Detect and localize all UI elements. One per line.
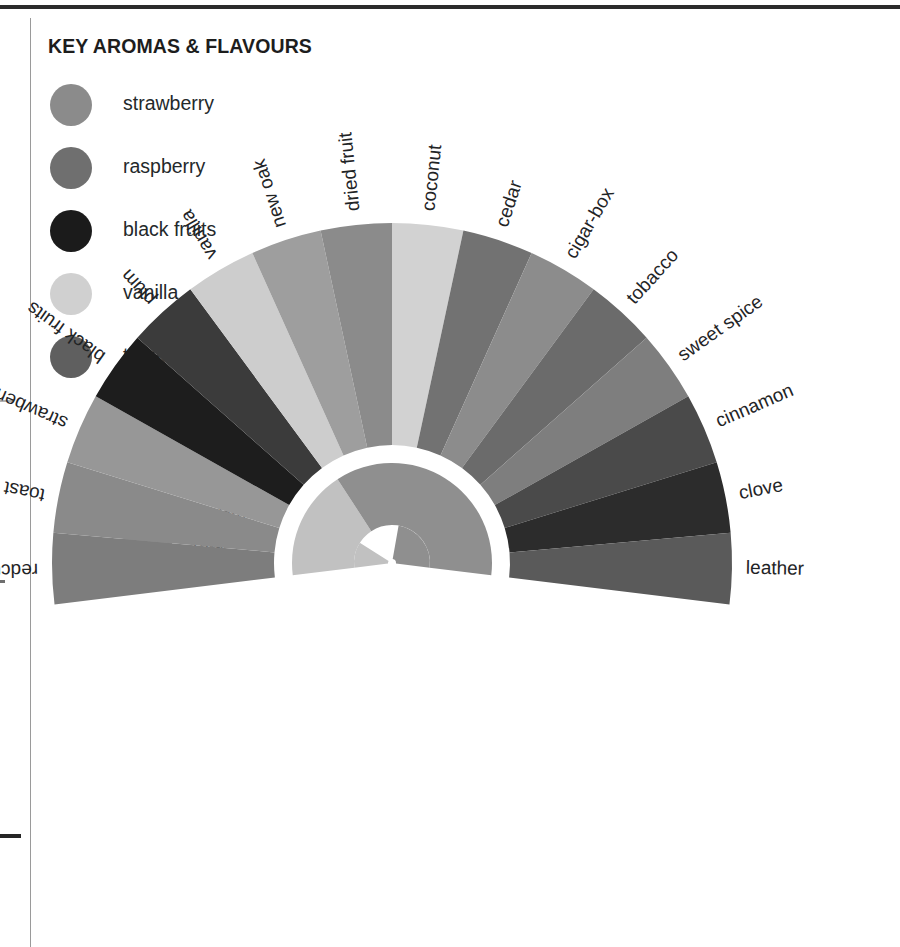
aroma-slice	[495, 396, 717, 528]
list-item: strawberry	[50, 84, 350, 147]
aroma-slice	[392, 223, 463, 448]
era-ring-segment-extension	[354, 543, 389, 568]
page-canvas: KEY AROMAS & FLAVOURS strawberry raspber…	[0, 0, 900, 947]
key-item-label: vanilla	[123, 281, 178, 304]
aroma-slice-label: tobacco	[622, 245, 682, 308]
aroma-slice-label: cedar	[491, 177, 526, 229]
aroma-slice	[505, 462, 731, 552]
aroma-slice	[417, 231, 532, 456]
aroma-slice-label: toast	[1, 477, 46, 506]
list-item: black fruits	[50, 210, 350, 273]
aroma-slice-label: sweet spice	[673, 290, 766, 365]
era-legend-label: Modern	[190, 505, 246, 524]
crop-mark-upper	[0, 400, 14, 402]
list-item: tobacco	[50, 336, 350, 399]
aroma-slice-label: leather	[746, 557, 805, 579]
top-divider-rule	[0, 5, 900, 9]
aroma-slice	[462, 289, 647, 485]
aroma-slice-label: redcurrant	[0, 560, 38, 582]
color-swatch-dot	[50, 147, 92, 189]
color-swatch-dot	[50, 210, 92, 252]
aroma-slice	[67, 396, 289, 528]
color-swatch-dot	[50, 84, 92, 126]
aroma-slice-label: cigar-box	[560, 183, 618, 261]
era-legend-label: Traditional	[190, 533, 266, 552]
page-title: KEY AROMAS & FLAVOURS	[48, 35, 312, 58]
color-swatch-bar	[113, 511, 172, 524]
crop-mark-middle	[0, 580, 5, 583]
era-ring-segment-extension	[393, 526, 430, 568]
era-ring-segment	[292, 479, 371, 575]
aroma-slice	[509, 533, 732, 605]
left-margin-rule	[30, 18, 31, 947]
era-ring-segment	[338, 463, 492, 575]
aroma-slice-label: coconut	[417, 143, 445, 212]
aroma-key-list: strawberry raspberry black fruits vanill…	[50, 84, 350, 399]
key-item-label: strawberry	[123, 92, 214, 115]
key-item-label: black fruits	[123, 218, 216, 241]
aroma-slice-label: cinnamon	[712, 379, 796, 431]
key-item-label: raspberry	[123, 155, 205, 178]
color-swatch-dot	[50, 273, 92, 315]
aroma-slice-label: clove	[737, 474, 785, 503]
color-swatch-dot	[50, 336, 92, 378]
color-swatch-bar	[113, 539, 172, 552]
key-item-label: tobacco	[123, 344, 191, 367]
aroma-slice	[440, 253, 593, 468]
aroma-slice	[480, 338, 688, 505]
list-item: raspberry	[50, 147, 350, 210]
inner-era-ring	[292, 463, 492, 575]
crop-mark-lower	[0, 834, 21, 838]
list-item: vanilla	[50, 273, 350, 336]
